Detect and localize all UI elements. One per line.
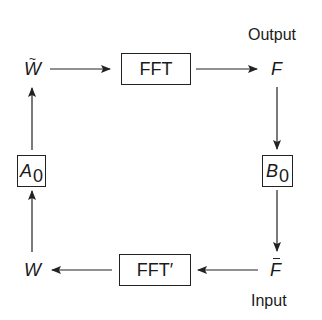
a0-box: A0 [17,155,46,187]
bar-mark [273,258,280,259]
fft-prime-box: FFT′ [119,254,191,286]
node-f-bar: F [270,261,281,279]
fft-box: FFT [121,53,191,85]
node-w-tilde: ~W [24,60,41,78]
tilde-mark: ~ [26,53,39,65]
input-label: Input [251,293,287,309]
node-w: W [24,261,41,279]
output-label: Output [248,27,296,43]
b0-box: B0 [262,155,293,187]
node-f: F [271,60,282,78]
